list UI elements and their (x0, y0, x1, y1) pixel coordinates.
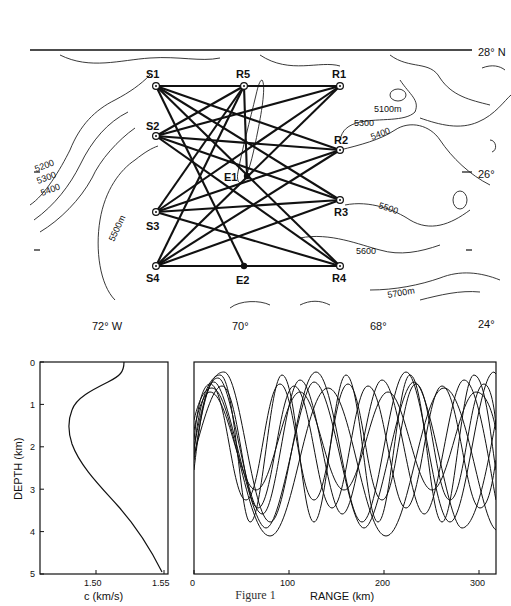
profile-ytick-4: 4 (30, 527, 35, 537)
ray-xtick-0: 0 (190, 578, 195, 588)
ray-paths (194, 372, 496, 536)
station-S4 (153, 263, 160, 270)
station-E1 (244, 173, 250, 179)
station-R2 (337, 147, 344, 154)
station-R3 (337, 197, 344, 204)
lat-label-24: 24° (478, 318, 495, 330)
ray-xtick-300: 300 (470, 578, 485, 588)
label-S2: S2 (146, 120, 159, 132)
profile-ytick-5: 5 (30, 569, 35, 579)
profile-frame (40, 362, 168, 574)
figure-caption: Figure 1 (0, 588, 511, 603)
profile-ytick-3: 3 (30, 485, 35, 495)
station-S3 (153, 209, 160, 216)
label-S1: S1 (146, 68, 159, 80)
contour-label-5700: 5700m (387, 285, 416, 300)
profile-ytick-2: 2 (30, 442, 35, 452)
label-R2: R2 (334, 134, 348, 146)
profile-xtick-155: 1.55 (152, 578, 170, 588)
ray-trace-chart: 0 100 200 300 RANGE (km) (190, 362, 496, 602)
station-R1 (337, 83, 344, 90)
label-E2: E2 (236, 274, 249, 286)
contour-label-5500-right: 5500 (377, 200, 399, 216)
label-E1: E1 (224, 171, 237, 183)
station-R4 (337, 263, 344, 270)
contour-label-5600: 5600 (356, 246, 376, 256)
station-S1 (153, 83, 160, 90)
contour-label-5100: 5100m (374, 104, 402, 114)
lat-label-26: 26° (478, 168, 495, 180)
profile-ytick-1: 1 (30, 400, 35, 410)
label-R1: R1 (332, 68, 346, 80)
label-S3: S3 (146, 220, 159, 232)
lon-label-70: 70° (232, 320, 249, 332)
contour-label-5300-right: 5300 (354, 118, 374, 128)
label-R3: R3 (334, 206, 348, 218)
station-S2 (153, 133, 160, 140)
contour-label-5400-right: 5400 (369, 126, 391, 142)
profile-xtick-150: 1.50 (84, 578, 102, 588)
ray-xtick-100: 100 (280, 578, 295, 588)
contour-label-5500m-left: 5500m (107, 214, 128, 243)
profile-ytick-0: 0 (30, 358, 35, 368)
sound-speed-curve (69, 362, 162, 572)
contour-lines (30, 55, 511, 308)
figure-canvas: S1 S2 S3 S4 R5 R1 R2 R3 R4 E1 E2 5100m 5… (0, 0, 511, 606)
ray-xtick-200: 200 (375, 578, 390, 588)
label-R4: R4 (332, 272, 347, 284)
station-R5 (241, 83, 248, 90)
lat-label-28N: 28° N (478, 46, 506, 58)
station-E2 (241, 263, 247, 269)
lon-label-72W: 72° W (92, 320, 123, 332)
label-S4: S4 (146, 272, 160, 284)
sound-speed-profile-chart: 0 1 2 3 4 5 1.50 1.55 c (km/s) DEPTH (km… (12, 358, 170, 602)
profile-ylabel: DEPTH (km) (12, 438, 24, 500)
lon-label-68: 68° (370, 320, 387, 332)
bathymetry-map: S1 S2 S3 S4 R5 R1 R2 R3 R4 E1 E2 5100m 5… (30, 46, 511, 332)
label-R5: R5 (236, 68, 250, 80)
